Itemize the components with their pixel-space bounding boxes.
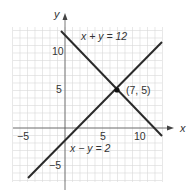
intersection-point	[114, 87, 119, 92]
point-label: (7, 5)	[126, 84, 151, 96]
tick-y-neg5: −5	[49, 159, 61, 171]
line1-label: x + y = 12	[80, 30, 127, 42]
x-axis-arrow-icon	[167, 126, 174, 131]
tick-y-10: 10	[52, 45, 64, 57]
chart: y x x + y = 12 x − y = 2 (7, 5) −5 5 10 …	[0, 0, 193, 194]
x-axis-label: x	[179, 122, 186, 134]
grid	[13, 27, 163, 182]
tick-y-5: 5	[56, 83, 62, 95]
y-axis-arrow-icon	[63, 13, 68, 20]
line2-label: x − y = 2	[69, 142, 110, 154]
tick-x-5: 5	[100, 130, 106, 142]
tick-x-neg5: −5	[17, 130, 29, 142]
y-axis-label: y	[53, 8, 61, 20]
tick-x-10: 10	[134, 130, 146, 142]
